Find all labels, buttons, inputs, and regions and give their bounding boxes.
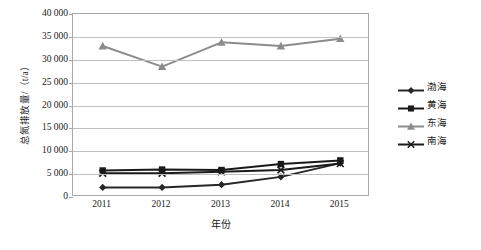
y-tick-label: 20 000	[42, 100, 68, 109]
x-tick-label: 2011	[92, 199, 111, 210]
x-tick-label: 2015	[330, 199, 349, 210]
y-tick-mark	[69, 106, 73, 107]
gridline	[73, 37, 368, 38]
x-tick-label: 2012	[152, 199, 171, 210]
y-tick-label: 0	[63, 192, 68, 201]
data-point	[218, 181, 225, 188]
y-tick-label: 10 000	[42, 146, 68, 155]
y-tick-mark	[69, 37, 73, 38]
y-tick-mark	[69, 83, 73, 84]
y-tick-label: 25 000	[42, 77, 68, 86]
gridline	[73, 128, 368, 129]
y-axis-tick-labels: 40 00035 00030 00025 00020 00015 00010 0…	[22, 13, 68, 196]
y-tick-label: 35 000	[42, 31, 68, 40]
legend-marker-icon	[398, 136, 424, 147]
y-tick-mark	[69, 60, 73, 61]
x-axis-title: 年份	[72, 216, 369, 231]
y-tick-mark	[69, 128, 73, 129]
y-tick-label: 15 000	[42, 123, 68, 132]
data-point	[278, 161, 284, 167]
data-point	[99, 184, 106, 191]
legend-marker-icon	[398, 118, 424, 129]
legend-item[interactable]: 渤海	[398, 82, 447, 93]
legend-marker-icon	[398, 100, 424, 111]
gridline	[73, 174, 368, 175]
chart-legend: 渤海黄海东海南海	[398, 82, 447, 147]
legend-marker-icon	[398, 82, 424, 93]
series-triangle	[99, 35, 345, 70]
legend-label: 南海	[427, 136, 447, 147]
gridline	[73, 151, 368, 152]
x-axis-tick-labels: 20112012201320142015	[72, 199, 369, 213]
y-tick-mark	[69, 14, 73, 15]
y-tick-mark	[69, 174, 73, 175]
data-point	[99, 42, 107, 50]
y-tick-mark	[69, 151, 73, 152]
plot-area	[72, 13, 369, 196]
y-tick-label: 40 000	[42, 9, 68, 18]
y-tick-label: 5 000	[47, 169, 68, 178]
x-tick-label: 2014	[270, 199, 289, 210]
legend-label: 黄海	[427, 100, 447, 111]
series-diamond	[99, 160, 344, 191]
gridline	[73, 83, 368, 84]
y-tick-mark	[69, 197, 73, 198]
chart-figure: 总氮排放量/（t/a） 40 00035 00030 00025 00020 0…	[0, 0, 481, 250]
legend-item[interactable]: 南海	[398, 136, 447, 147]
legend-item[interactable]: 东海	[398, 118, 447, 129]
legend-label: 渤海	[427, 82, 447, 93]
gridline	[73, 106, 368, 107]
gridline	[73, 60, 368, 61]
legend-label: 东海	[427, 118, 447, 129]
series-canvas	[73, 14, 368, 195]
legend-item[interactable]: 黄海	[398, 100, 447, 111]
x-tick-label: 2013	[211, 199, 230, 210]
data-point	[159, 184, 166, 191]
y-tick-label: 30 000	[42, 54, 68, 63]
